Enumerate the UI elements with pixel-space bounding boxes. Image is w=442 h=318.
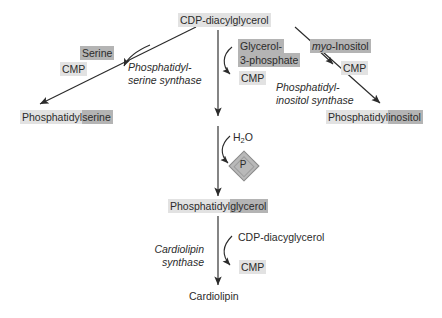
enzyme-phosphatidylserine-synthase: Phosphatidyl- serine synthase [128,61,202,86]
pathway-diagram: CDP-diacylglycerol Serine CMP Phosphatid… [0,0,442,318]
enzyme-pi-synthase-line2: inositol synthase [276,94,354,107]
arc-water-to-phosphate [222,136,230,163]
substrate-myo-inositol: myo-Inositol [310,40,371,53]
byproduct-cmp-center: CMP [239,72,266,85]
substrate-serine: Serine [80,47,114,60]
substrate-serine-text: Serine [80,46,114,60]
enzyme-pi-synthase-line1: Phosphatidyl- [276,81,354,94]
node-cardiolipin: Cardiolipin [189,290,239,303]
node-phosphatidylglycerol-suffix: glycerol [230,199,268,213]
byproduct-cmp-right-text: CMP [341,61,368,75]
byproduct-cmp-center-text: CMP [239,71,266,85]
node-cdp-diacylglycerol: CDP-diacylglycerol [178,14,271,27]
arc-glycerol3phosphate-to-cmp [224,47,232,74]
node-phosphatidylglycerol: Phosphatidylglycerol [168,200,268,213]
enzyme-phosphatidylinositol-synthase: Phosphatidyl- inositol synthase [276,81,354,106]
substrate-glycerol-3-phosphate-line2: 3-phosphate [238,53,300,67]
substrate-inositol-root: Inositol [335,40,368,52]
byproduct-cmp-bottom: CMP [239,261,266,274]
enzyme-cardiolipin-synthase-line1: Cardiolipin [122,243,204,256]
node-phosphatidylserine: Phosphatidylserine [20,111,113,124]
byproduct-cmp-left-text: CMP [60,62,87,76]
enzyme-ps-synthase-line1: Phosphatidyl- [128,61,202,74]
phosphate-letter: P [233,155,253,175]
node-cdp-diacylglycerol-text: CDP-diacylglycerol [178,13,271,27]
node-phosphatidylserine-suffix: serine [82,110,113,124]
substrate-cdp-diacyglycerol-lower: CDP-diacyglycerol [238,231,324,244]
node-phosphatidylinositol-prefix: Phosphatidyl [326,110,388,124]
byproduct-cmp-left: CMP [60,63,87,76]
substrate-glycerol-3-phosphate-line1: Glycerol- [238,39,284,53]
arc-cdp-to-cmp-bottom [224,236,232,265]
substrate-myo-prefix: myo- [312,40,335,52]
node-phosphatidylserine-prefix: Phosphatidyl [20,110,82,124]
substrate-water-h: H [233,131,241,143]
substrate-myo-inositol-text: myo-Inositol [310,39,371,53]
byproduct-cmp-bottom-text: CMP [239,260,266,274]
node-phosphatidylinositol-suffix: inositol [388,110,423,124]
substrate-water: H2O [233,131,253,147]
byproduct-phosphate: P [233,155,253,175]
substrate-water-o: O [245,131,253,143]
node-phosphatidylinositol: Phosphatidylinositol [326,111,423,124]
enzyme-cardiolipin-synthase: Cardiolipin synthase [122,243,204,268]
substrate-glycerol-3-phosphate: Glycerol- 3-phosphate [238,40,300,67]
substrate-cdp-diacyglycerol-lower-text: CDP-diacyglycerol [238,231,324,243]
node-phosphatidylglycerol-prefix: Phosphatidyl [168,199,230,213]
node-cardiolipin-text: Cardiolipin [189,290,239,302]
enzyme-cardiolipin-synthase-line2: synthase [122,256,204,269]
enzyme-ps-synthase-line2: serine synthase [128,74,202,87]
pathway-arrows [0,0,442,318]
byproduct-cmp-right: CMP [341,62,368,75]
